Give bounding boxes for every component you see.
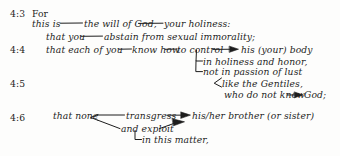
sentence-flow-diagram-page: 4:3 4:4 4:5 4:6 For this is the will of … bbox=[0, 0, 340, 156]
clause-the-will-of-god: the will of God, bbox=[84, 19, 157, 28]
clause-in-holiness-and-honor: in holiness and honor, bbox=[203, 57, 307, 66]
clause-god: God; bbox=[304, 90, 326, 99]
clause-who-do-not-know: who do not know bbox=[224, 90, 305, 99]
clause-for: For bbox=[32, 9, 48, 18]
verse-label-4-3: 4:3 bbox=[10, 9, 25, 18]
clause-in-this-matter: in this matter, bbox=[142, 135, 209, 144]
clause-his-your-body: his (your) body bbox=[241, 45, 313, 54]
arrowhead-transgress-to-brother bbox=[181, 112, 191, 118]
branch-to-and-exploit bbox=[98, 120, 120, 128]
arrowhead-control-to-body bbox=[230, 46, 239, 52]
bracket-to-not-in-passion bbox=[196, 61, 203, 72]
clause-this-is: this is bbox=[32, 19, 61, 28]
clause-transgress: transgress bbox=[126, 111, 176, 120]
clause-and-exploit: and exploit bbox=[121, 124, 174, 133]
clause-to-control: to control bbox=[177, 45, 223, 54]
verse-label-4-5: 4:5 bbox=[10, 79, 25, 88]
clause-that-none: that none bbox=[53, 111, 98, 120]
clause-like-the-gentiles: like the Gentiles, bbox=[222, 79, 303, 88]
clause-your-holiness: your holiness: bbox=[164, 19, 231, 28]
clause-that-each-of-you: that each of you bbox=[46, 45, 123, 54]
clause-not-in-passion-of-lust: not in passion of lust bbox=[203, 67, 302, 76]
clause-that-you: that you bbox=[46, 32, 85, 41]
chevron-like-the-gentiles bbox=[214, 78, 221, 87]
verse-label-4-6: 4:6 bbox=[10, 113, 25, 122]
verse-label-4-4: 4:4 bbox=[10, 45, 25, 54]
clause-hisher-brother-or-sister: his/her brother (or sister) bbox=[192, 111, 314, 120]
clause-know-how: know how bbox=[132, 45, 180, 54]
clause-abstain-from-sexual-immorality: abstain from sexual immorality; bbox=[104, 32, 255, 41]
